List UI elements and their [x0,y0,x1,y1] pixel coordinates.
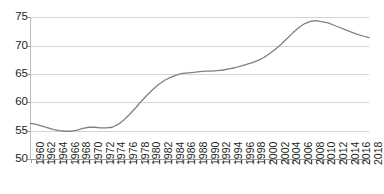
x-tick-label: 1988 [198,142,209,165]
x-tick-label: 1974 [116,142,127,165]
x-tick-label: 2004 [291,142,302,165]
x-tick-label: 1986 [186,142,197,165]
x-tick-label: 1980 [151,142,162,165]
x-tick-label: 2006 [303,142,314,165]
x-tick-label: 2002 [280,142,291,165]
x-tick-label: 1964 [58,142,69,165]
x-tick-label: 1962 [46,142,57,165]
x-tick-label: 1972 [105,142,116,165]
x-tick-label: 1994 [233,142,244,165]
x-tick-label: 1996 [245,142,256,165]
x-tick-label: 1984 [175,142,186,165]
x-tick-label: 1998 [256,142,267,165]
x-tick-label: 1966 [70,142,81,165]
x-tick-label: 2000 [268,142,279,165]
x-tick-label: 2018 [373,142,384,165]
x-tick-label: 1982 [163,142,174,165]
x-tick-label: 1960 [35,142,46,165]
x-tick-label: 1978 [140,142,151,165]
x-tick-label: 2010 [326,142,337,165]
x-tick-label: 1970 [93,142,104,165]
x-tick-label: 1990 [210,142,221,165]
x-tick-label: 1992 [221,142,232,165]
x-tick-label: 2008 [315,142,326,165]
x-tick-label: 2012 [338,142,349,165]
x-tick-label: 2014 [350,142,361,165]
x-tick-label: 1968 [81,142,92,165]
x-tick-label: 2016 [361,142,372,165]
x-tick-label: 1976 [128,142,139,165]
